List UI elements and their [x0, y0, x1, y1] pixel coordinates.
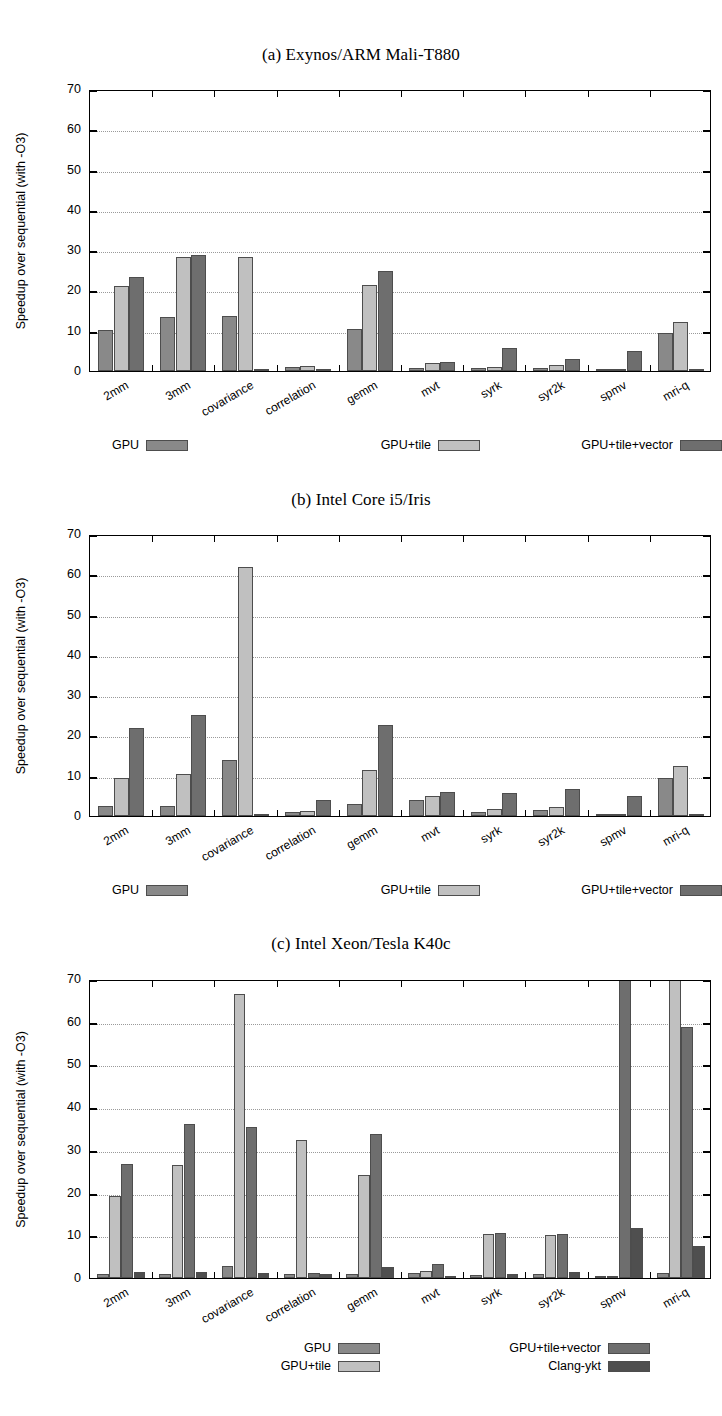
bar-a-mri-q-GPU-tile-vector	[689, 369, 704, 371]
y-tick-label-40: 40	[55, 648, 81, 662]
bar-c-3mm-GPU-tile	[172, 1165, 184, 1278]
legend-label: GPU+tile+vector	[581, 883, 673, 897]
y-tick-label-50: 50	[55, 608, 81, 622]
bar-c-2mm-GPU-tile-vector	[121, 1164, 133, 1278]
x-tick-mark	[214, 536, 215, 542]
legend-label: GPU+tile+vector	[581, 438, 673, 452]
y-tick-mark	[703, 736, 710, 738]
legend-swatch	[680, 885, 722, 896]
y-tick-mark	[90, 575, 97, 577]
x-tick-mark	[214, 981, 215, 987]
bar-c-spmv-GPU-tile-vector	[619, 980, 631, 1278]
gridline	[90, 252, 710, 253]
bar-c-correlation-Clang-ykt	[320, 1274, 332, 1278]
bar-c-gemm-GPU-tile	[358, 1175, 370, 1278]
y-axis-label-text-b: Speedup over sequential (with -O3)	[14, 535, 28, 817]
gridline	[90, 737, 710, 738]
x-tick-mark	[650, 536, 651, 542]
y-tick-mark	[90, 696, 97, 698]
plot-area-a	[89, 90, 711, 372]
bar-a-3mm-GPU	[160, 317, 175, 371]
y-tick-mark	[90, 535, 97, 537]
bar-c-mvt-GPU-tile-vector	[432, 1264, 444, 1278]
x-tick-mark	[401, 981, 402, 987]
bar-a-mri-q-GPU	[658, 333, 673, 371]
y-tick-mark	[90, 1194, 97, 1196]
bar-b-spmv-GPU	[596, 814, 611, 816]
bar-c-3mm-GPU	[159, 1274, 171, 1278]
bar-a-syrk-GPU	[471, 368, 486, 371]
gridline	[90, 657, 710, 658]
bar-b-syr2k-GPU	[533, 810, 548, 816]
x-tick-mark	[339, 91, 340, 97]
gridline	[90, 131, 710, 132]
y-tick-label-10: 10	[55, 1228, 81, 1242]
bar-b-covariance-GPU	[222, 760, 237, 816]
y-tick-mark	[703, 130, 710, 132]
bar-a-gemm-GPU	[347, 329, 362, 371]
y-tick-mark	[703, 171, 710, 173]
bar-c-correlation-GPU-tile-vector	[308, 1273, 320, 1278]
legend-label: GPU+tile	[381, 438, 431, 452]
bar-c-3mm-GPU-tile-vector	[184, 1124, 196, 1278]
legend-item-GPU: GPU	[18, 883, 188, 897]
y-tick-mark	[90, 736, 97, 738]
y-tick-mark	[90, 1023, 97, 1025]
legend-swatch	[608, 1343, 650, 1354]
bar-b-syr2k-GPU-tile-vector	[565, 789, 580, 816]
y-tick-label-40: 40	[55, 1100, 81, 1114]
bar-c-mri-q-GPU-tile	[669, 980, 681, 1278]
y-tick-label-20: 20	[55, 728, 81, 742]
bar-c-gemm-GPU	[346, 1274, 358, 1278]
bar-c-spmv-GPU	[595, 1276, 607, 1278]
legend-label: GPU+tile	[381, 883, 431, 897]
x-tick-mark	[339, 365, 340, 371]
bar-b-mri-q-GPU-tile	[673, 766, 688, 816]
x-category-label-correlation: correlation	[203, 823, 317, 897]
y-tick-mark	[703, 535, 710, 537]
legend-swatch	[338, 1343, 380, 1354]
y-tick-label-10: 10	[55, 324, 81, 338]
chart-title-b: (b) Intel Core i5/Iris	[0, 489, 722, 511]
y-tick-label-50: 50	[55, 163, 81, 177]
bar-b-mvt-GPU-tile	[425, 796, 440, 816]
bar-c-syrk-Clang-ykt	[507, 1274, 519, 1278]
x-tick-mark	[588, 91, 589, 97]
y-tick-mark	[703, 90, 710, 92]
y-tick-mark	[703, 1023, 710, 1025]
x-tick-mark	[214, 91, 215, 97]
y-tick-label-50: 50	[55, 1057, 81, 1071]
gridline	[90, 576, 710, 577]
bar-c-spmv-Clang-ykt	[631, 1228, 643, 1278]
bar-a-syr2k-GPU-tile-vector	[565, 359, 580, 371]
bar-b-mvt-GPU-tile-vector	[440, 792, 455, 816]
bar-b-mri-q-GPU	[658, 778, 673, 816]
bar-c-correlation-GPU-tile	[296, 1140, 308, 1278]
y-tick-mark	[90, 656, 97, 658]
x-tick-mark	[152, 365, 153, 371]
y-tick-mark	[703, 251, 710, 253]
bar-c-gemm-Clang-ykt	[382, 1267, 394, 1278]
bar-b-gemm-GPU-tile	[362, 770, 377, 816]
x-tick-mark	[152, 91, 153, 97]
x-tick-mark	[152, 981, 153, 987]
x-tick-mark	[339, 810, 340, 816]
x-tick-mark	[525, 365, 526, 371]
bar-b-syrk-GPU-tile	[487, 809, 502, 816]
legend-label: GPU	[304, 1341, 331, 1355]
bar-b-gemm-GPU	[347, 804, 362, 816]
x-tick-mark	[152, 536, 153, 542]
y-tick-label-20: 20	[55, 1186, 81, 1200]
y-tick-label-60: 60	[55, 122, 81, 136]
x-tick-mark	[152, 810, 153, 816]
bar-a-spmv-GPU-tile	[611, 369, 626, 371]
y-tick-label-60: 60	[55, 567, 81, 581]
x-tick-mark	[339, 536, 340, 542]
y-tick-mark	[90, 777, 97, 779]
x-tick-mark	[277, 1272, 278, 1278]
bar-b-3mm-GPU-tile-vector	[191, 715, 206, 816]
bar-a-correlation-GPU	[285, 367, 300, 371]
x-tick-mark	[525, 810, 526, 816]
x-tick-mark	[277, 91, 278, 97]
x-tick-mark	[463, 536, 464, 542]
